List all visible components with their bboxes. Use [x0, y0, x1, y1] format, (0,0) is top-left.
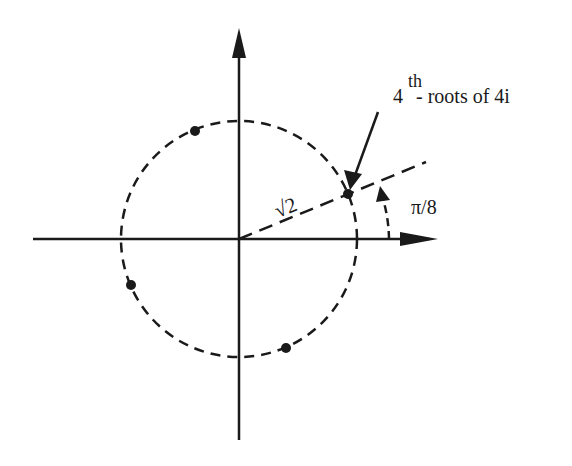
radius-label: √2	[271, 192, 300, 223]
angle-label: π/8	[411, 196, 437, 218]
label-pointer-arrowhead	[344, 170, 362, 190]
angle-arc	[383, 199, 389, 239]
root-point-13pi-8	[281, 343, 291, 353]
imaginary-axis-arrowhead	[232, 28, 246, 58]
annotation-base: 4	[393, 85, 403, 107]
root-point-5pi-8	[190, 126, 200, 136]
angle-arc-arrowhead	[376, 186, 390, 202]
angle-ray	[239, 162, 426, 239]
complex-plane-diagram: 4 th - roots of 4i √2 π/8	[0, 0, 572, 466]
root-point-9pi-8	[126, 280, 136, 290]
real-axis-arrowhead	[400, 232, 438, 246]
label-pointer-line	[354, 112, 378, 178]
annotation-text: - roots of 4i	[416, 85, 510, 107]
root-point-pi-8	[343, 189, 353, 199]
